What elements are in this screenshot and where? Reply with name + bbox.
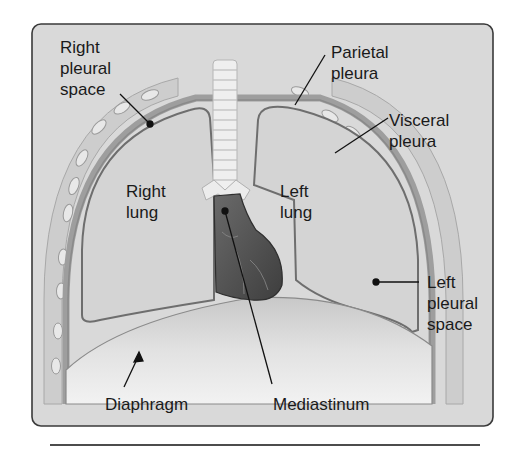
svg-text:Parietal: Parietal: [331, 43, 389, 62]
svg-text:pleural: pleural: [427, 294, 478, 313]
svg-text:Left: Left: [427, 273, 456, 292]
svg-text:space: space: [60, 80, 105, 99]
svg-text:lung: lung: [126, 203, 158, 222]
svg-text:Visceral: Visceral: [389, 111, 449, 130]
svg-text:lung: lung: [280, 203, 312, 222]
svg-text:pleura: pleura: [331, 64, 379, 83]
svg-text:pleural: pleural: [60, 59, 111, 78]
svg-text:pleura: pleura: [389, 132, 437, 151]
svg-text:Right: Right: [126, 182, 166, 201]
label-mediastinum: Mediastinum: [273, 395, 369, 414]
label-diaphragm: Diaphragm: [105, 395, 188, 414]
svg-text:Right: Right: [60, 38, 100, 57]
svg-text:space: space: [427, 315, 472, 334]
svg-text:Left: Left: [280, 182, 309, 201]
thoracic-cavity-diagram: Right pleural space Parietal pleura Visc…: [0, 0, 520, 449]
